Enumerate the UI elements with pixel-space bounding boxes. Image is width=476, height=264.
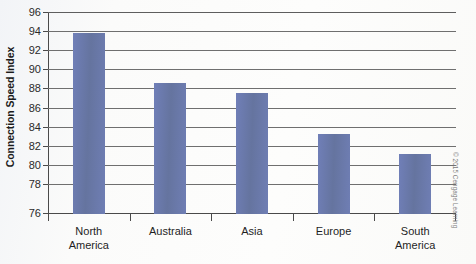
bar-chart-figure: Connection Speed Index 96 94 92 90 88 86… (0, 0, 476, 264)
y-tick-90 (43, 69, 48, 70)
y-tick-label-92: 92 (29, 44, 41, 56)
y-tick-94 (43, 31, 48, 32)
bar-north-america[interactable] (73, 33, 105, 214)
x-label-australia: Australia (130, 224, 212, 238)
y-tick-86 (43, 108, 48, 109)
x-tick-4 (374, 214, 375, 221)
x-label-north-america: North America (48, 224, 130, 252)
y-tick-84 (43, 127, 48, 128)
y-tick-label-80: 80 (29, 159, 41, 171)
y-tick-label-90: 90 (29, 63, 41, 75)
bar-europe[interactable] (318, 134, 350, 214)
y-axis-title: Connection Speed Index (2, 0, 18, 214)
x-tick-3 (293, 214, 294, 221)
x-tick-1 (130, 214, 131, 221)
bar-south-america[interactable] (399, 154, 431, 214)
gridline-94 (48, 31, 456, 32)
y-tick-96 (43, 12, 48, 13)
y-tick-label-96: 96 (29, 6, 41, 18)
gridline-88 (48, 88, 456, 89)
y-tick-label-78: 78 (29, 178, 41, 190)
y-tick-82 (43, 146, 48, 147)
y-tick-80 (43, 165, 48, 166)
y-tick-label-76: 76 (29, 207, 41, 219)
plot-area: 96 94 92 90 88 86 84 82 80 78 76 (48, 12, 456, 214)
y-tick-78 (43, 184, 48, 185)
y-tick-label-94: 94 (29, 25, 41, 37)
y-tick-label-84: 84 (29, 121, 41, 133)
bar-asia[interactable] (236, 93, 268, 214)
gridline-90 (48, 69, 456, 70)
y-tick-92 (43, 50, 48, 51)
x-label-south-america: South America (374, 224, 456, 252)
gridline-92 (48, 50, 456, 51)
x-tick-0 (48, 214, 49, 221)
y-tick-label-82: 82 (29, 140, 41, 152)
y-tick-label-88: 88 (29, 82, 41, 94)
x-label-asia: Asia (211, 224, 293, 238)
x-tick-2 (211, 214, 212, 221)
gridline-96 (48, 12, 456, 13)
x-label-europe: Europe (293, 224, 375, 238)
y-tick-label-86: 86 (29, 102, 41, 114)
copyright-notice: © 2015 Cengage Learning (450, 152, 462, 256)
bar-australia[interactable] (154, 83, 186, 214)
y-tick-88 (43, 88, 48, 89)
